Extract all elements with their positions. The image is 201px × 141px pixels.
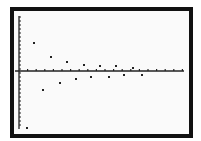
data-point	[108, 76, 110, 78]
data-point	[33, 42, 35, 44]
data-point	[59, 82, 61, 84]
data-point	[90, 76, 92, 78]
data-point	[123, 74, 125, 76]
data-point	[141, 74, 143, 76]
data-point	[99, 65, 101, 67]
data-point	[83, 64, 85, 66]
data-point	[75, 78, 77, 80]
data-point	[50, 56, 52, 58]
data-point	[26, 127, 28, 129]
data-point	[115, 65, 117, 67]
data-point	[66, 61, 68, 63]
scatter-plot	[0, 0, 201, 141]
data-point	[42, 89, 44, 91]
data-point	[132, 67, 134, 69]
